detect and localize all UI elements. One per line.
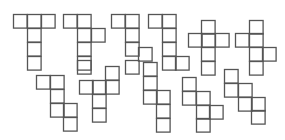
net-square <box>78 57 92 71</box>
net-square <box>144 63 158 77</box>
net-square <box>250 34 264 48</box>
net-square <box>239 98 253 112</box>
net-square <box>37 76 51 90</box>
cube-net-10 <box>183 78 224 133</box>
net-square <box>163 57 177 71</box>
net-square <box>189 34 203 48</box>
net-square <box>163 43 177 57</box>
cube-net-3 <box>112 15 153 75</box>
net-square <box>250 48 264 62</box>
net-square <box>252 98 266 112</box>
net-square <box>149 15 163 29</box>
net-square <box>197 119 211 133</box>
net-square <box>252 111 266 125</box>
net-square <box>176 57 190 71</box>
net-square <box>112 15 126 29</box>
net-square <box>202 48 216 62</box>
net-square <box>157 119 171 133</box>
net-square <box>92 29 106 43</box>
net-square <box>202 62 216 76</box>
net-square <box>202 21 216 35</box>
net-square <box>28 57 42 71</box>
net-square <box>28 29 42 43</box>
net-square <box>210 106 224 120</box>
net-square <box>93 95 107 109</box>
net-square <box>51 90 65 104</box>
net-square <box>157 91 171 105</box>
net-square <box>78 15 92 29</box>
net-square <box>93 81 107 95</box>
net-square <box>106 81 120 95</box>
net-square <box>78 43 92 57</box>
net-square <box>183 92 197 106</box>
cube-net-9 <box>144 63 171 133</box>
net-square <box>236 34 250 48</box>
net-square <box>93 109 107 123</box>
net-square <box>144 77 158 91</box>
net-square <box>78 61 92 75</box>
net-square <box>28 15 42 29</box>
net-square <box>64 104 78 118</box>
net-square <box>197 106 211 120</box>
net-square <box>197 92 211 106</box>
net-square <box>28 43 42 57</box>
net-square <box>64 118 78 132</box>
net-square <box>183 78 197 92</box>
net-square <box>157 105 171 119</box>
net-square <box>225 84 239 98</box>
net-square <box>51 104 65 118</box>
net-square <box>106 67 120 81</box>
net-square <box>163 15 177 29</box>
cube-net-8 <box>80 67 120 123</box>
net-square <box>126 15 140 29</box>
net-square <box>126 61 140 75</box>
net-square <box>144 91 158 105</box>
net-square <box>42 15 56 29</box>
net-square <box>51 76 65 90</box>
net-square <box>126 29 140 43</box>
net-square <box>163 29 177 43</box>
cube-net-4 <box>149 15 190 71</box>
net-square <box>80 81 94 95</box>
net-square <box>225 70 239 84</box>
cube-net-7 <box>37 76 78 132</box>
net-square <box>263 48 277 62</box>
net-square <box>250 21 264 35</box>
net-square <box>202 34 216 48</box>
cube-net-5 <box>189 21 230 76</box>
cube-net-2 <box>64 15 106 75</box>
net-square <box>250 62 264 76</box>
cube-net-11 <box>225 70 266 125</box>
net-square <box>139 48 153 62</box>
cube-nets-diagram <box>0 0 285 140</box>
cube-net-1 <box>14 15 56 71</box>
net-square <box>78 29 92 43</box>
net-square <box>64 15 78 29</box>
net-square <box>216 34 230 48</box>
net-square <box>239 84 253 98</box>
net-square <box>14 15 28 29</box>
net-square <box>126 43 140 57</box>
cube-net-6 <box>236 21 277 76</box>
